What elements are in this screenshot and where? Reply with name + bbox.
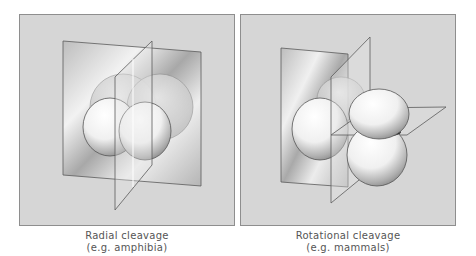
rotational-cleavage-panel [240,14,456,226]
caption-title: Radial cleavage [19,230,235,242]
radial-cleavage-caption: Radial cleavage (e.g. amphibia) [19,230,235,254]
caption-example: (e.g. mammals) [240,242,456,254]
blastomere [349,89,409,139]
caption-title: Rotational cleavage [240,230,456,242]
rotational-cleavage-caption: Rotational cleavage (e.g. mammals) [240,230,456,254]
caption-example: (e.g. amphibia) [19,242,235,254]
rotational-cleavage-illustration [241,15,457,227]
radial-cleavage-illustration [20,15,236,227]
radial-cleavage-panel [19,14,235,226]
